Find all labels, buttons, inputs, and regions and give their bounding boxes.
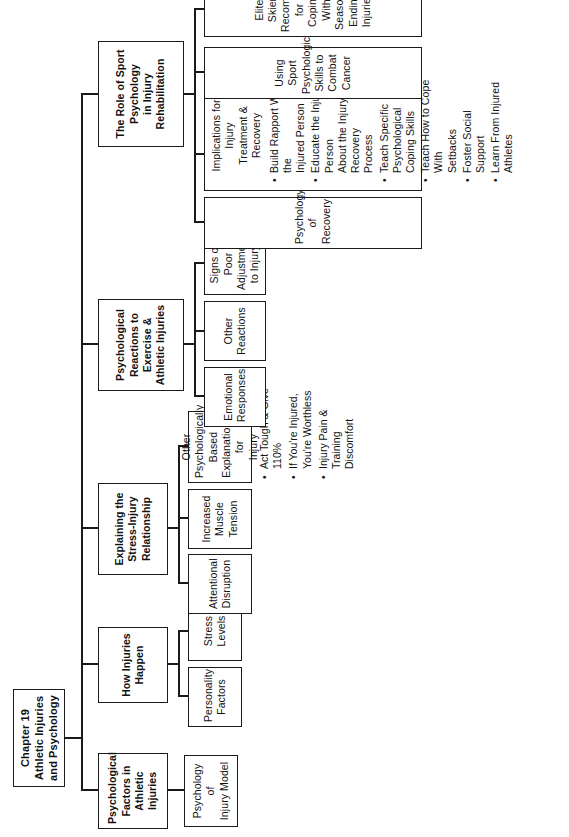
connector-branch-0-drop xyxy=(81,789,98,791)
connector-branch-4-spine xyxy=(194,9,196,223)
branch-4-child-1-header: Implications for Injury Treatment & Reco… xyxy=(210,87,264,184)
branch-4-bullet-4-label: Foster Social Support xyxy=(461,76,487,173)
connector-branch-3-child-0-drop xyxy=(194,395,204,397)
branch-1-child-0-box: Personality Factors xyxy=(188,667,242,727)
bullet-dot-icon: • xyxy=(287,475,300,479)
branch-4-child-2-box: Using Sport Psychological Skills to Comb… xyxy=(204,47,422,99)
branch-4-bullet-3-label: Teach How to Cope With Setbacks xyxy=(419,76,459,173)
org-chart: Chapter 19 Athletic Injuries and Psychol… xyxy=(0,0,569,837)
connector-branch-4-stem xyxy=(184,93,194,95)
branch-1-label: How Injuries Happen xyxy=(120,632,147,698)
branch-4-child-3-label: Elite Skier Recommendations for Coping W… xyxy=(253,0,374,32)
branch-2-bullet-item: • If You're Injured, You're Worthless xyxy=(287,387,313,479)
connector-branch-3-child-2-drop xyxy=(194,262,204,264)
branch-0-label: Psychological Factors in Athletic Injuri… xyxy=(106,758,160,824)
branch-4-child-2-label: Using Sport Psychological Skills to Comb… xyxy=(273,52,354,94)
connector-root-stem xyxy=(65,737,81,739)
connector-branch-1-stem xyxy=(168,663,178,665)
branch-0-box: Psychological Factors in Athletic Injuri… xyxy=(98,753,168,829)
connector-branch-3-stem xyxy=(184,343,194,345)
branch-3-child-1-label: Other Reactions xyxy=(222,306,249,356)
branch-4-label: The Role of Sport Psychology in Injury R… xyxy=(114,46,168,142)
diagram-canvas: Chapter 19 Athletic Injuries and Psychol… xyxy=(0,0,569,837)
branch-2-child-0-label: Attentional Disruption xyxy=(207,559,234,609)
branch-4-box: The Role of Sport Psychology in Injury R… xyxy=(98,41,184,147)
branch-1-box: How Injuries Happen xyxy=(98,627,168,703)
connector-branch-1-spine xyxy=(178,631,180,697)
bullet-dot-icon: • xyxy=(258,475,271,479)
connector-branch-2-child-0-drop xyxy=(178,582,188,584)
bullet-dot-icon: • xyxy=(317,475,330,479)
branch-3-child-0-box: Emotional Responses xyxy=(204,367,266,427)
connector-branch-3-child-1-drop xyxy=(194,330,204,332)
branch-0-child-0-box: Psychology of Injury Model xyxy=(184,755,238,827)
branch-2-child-0-box: Attentional Disruption xyxy=(188,554,252,614)
branch-4-child-0-label: Psychology of Recovery xyxy=(293,202,333,244)
branch-2-bullet-1-label: If You're Injured, You're Worthless xyxy=(287,387,313,469)
connector-branch-1-drop xyxy=(81,663,98,665)
branch-3-box: Psychological Reactions to Exercise & At… xyxy=(98,299,184,391)
connector-branch-4-drop xyxy=(81,93,98,95)
connector-branch-2-child-1-drop xyxy=(178,517,188,519)
branch-0-child-0-label: Psychology of Injury Model xyxy=(191,760,231,822)
connector-branch-2-stem xyxy=(168,527,178,529)
connector-branch-0-child-stem xyxy=(168,789,184,791)
connector-branch-1-child-0-drop xyxy=(178,695,188,697)
branch-2-bullet-list: • Act Tough & Give 110% • If You're Inju… xyxy=(258,387,357,479)
branch-3-label: Psychological Reactions to Exercise & At… xyxy=(114,304,168,386)
branch-3-child-1-box: Other Reactions xyxy=(204,301,266,361)
connector-branch-4-child-3-drop xyxy=(194,8,204,10)
branch-4-bullet-5-label: Learn From Injured Athletes xyxy=(489,76,515,173)
branch-3-child-0-label: Emotional Responses xyxy=(222,372,249,422)
branch-2-child-1-label: Increased Muscle Tension xyxy=(200,494,240,544)
branch-2-box: Explaining the Stress-Injury Relationshi… xyxy=(98,483,168,575)
branch-4-child-3-box: Elite Skier Recommendations for Coping W… xyxy=(204,0,422,37)
chart-root-title-label: Chapter 19 Athletic Injuries and Psychol… xyxy=(18,694,60,782)
connector-branch-4-child-0-drop xyxy=(194,221,204,223)
connector-branch-1-child-1-drop xyxy=(178,630,188,632)
connector-branch-4-child-1-drop xyxy=(194,153,204,155)
connector-root-spine xyxy=(81,95,83,791)
connector-branch-3-drop xyxy=(81,343,98,345)
branch-2-child-1-box: Increased Muscle Tension xyxy=(188,489,252,549)
branch-2-bullet-2-label: Injury Pain & Training Discomfort xyxy=(317,387,357,469)
branch-4-bullet-item: Foster Social Support xyxy=(461,76,487,173)
branch-2-label: Explaining the Stress-Injury Relationshi… xyxy=(113,488,153,570)
branch-4-bullet-item: Learn From Injured Athletes xyxy=(489,76,515,173)
rotated-chart-wrapper: Chapter 19 Athletic Injuries and Psychol… xyxy=(0,0,569,837)
branch-2-bullet-item: • Injury Pain & Training Discomfort xyxy=(317,387,357,479)
branch-4-bullet-item: Teach How to Cope With Setbacks xyxy=(419,76,459,173)
branch-1-child-0-label: Personality Factors xyxy=(202,672,229,722)
chart-root-title: Chapter 19 Athletic Injuries and Psychol… xyxy=(13,689,65,787)
connector-branch-2-drop xyxy=(81,527,98,529)
connector-branch-4-child-2-drop xyxy=(194,71,204,73)
branch-4-child-0-box: Psychology of Recovery xyxy=(204,197,422,249)
